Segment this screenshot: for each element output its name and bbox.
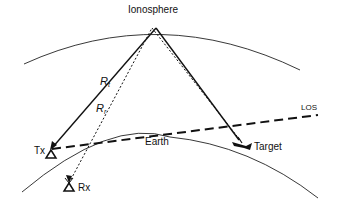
tx-label: Tx: [34, 145, 45, 156]
ionosphere-label: Ionosphere: [128, 4, 178, 15]
rt-label: Rt: [100, 75, 111, 88]
target-label: Target: [254, 141, 282, 152]
ionosphere-arc: [24, 34, 300, 70]
earth-label: Earth: [145, 136, 169, 147]
receive-path-down: [152, 28, 240, 140]
transmit-path-up: [52, 28, 156, 148]
rr-label: Rr: [96, 102, 107, 115]
ionospheric-radar-diagram: Ionosphere Earth LOS Tx Rx Target Rt Rr: [0, 0, 341, 211]
los-label: LOS: [301, 103, 317, 112]
tx-antenna-icon: [46, 150, 56, 158]
target-aircraft-icon: [232, 137, 252, 150]
receive-path-up: [69, 28, 152, 183]
rx-label: Rx: [78, 182, 90, 193]
